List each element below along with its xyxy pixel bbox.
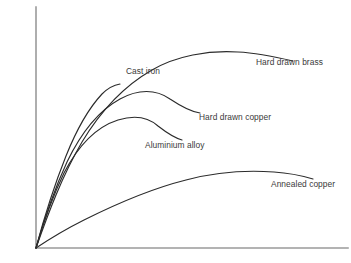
stress-strain-figure: Hard drawn brass Cast iron Hard drawn co… xyxy=(0,0,351,263)
label-annealed-copper: Annealed copper xyxy=(271,179,335,189)
label-hard-drawn-brass: Hard drawn brass xyxy=(256,57,323,67)
label-aluminium-alloy: Aluminium alloy xyxy=(145,140,204,150)
label-hard-drawn-copper: Hard drawn copper xyxy=(199,112,271,122)
label-cast-iron: Cast iron xyxy=(126,66,160,76)
chart-canvas xyxy=(0,0,351,263)
